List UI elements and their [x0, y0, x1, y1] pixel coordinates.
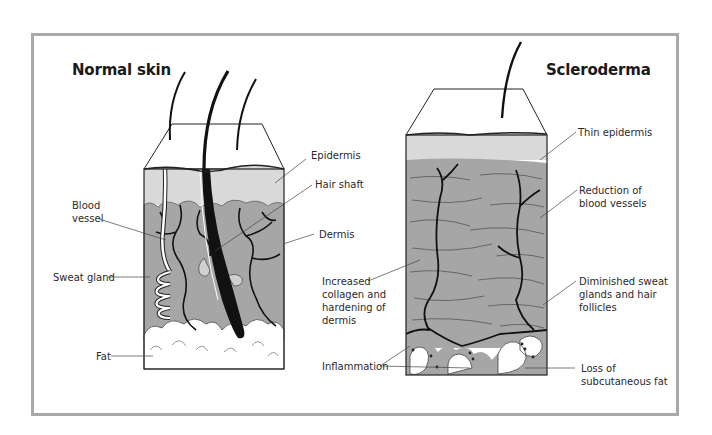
label-fat-loss-2: subcutaneous fat — [581, 375, 668, 388]
label-blood-vessel-1: Blood — [72, 199, 100, 212]
label-diminished-2: glands and hair — [579, 288, 657, 301]
label-blood-vessel-2: vessel — [72, 212, 103, 225]
panel-title-normal-skin: Normal skin — [72, 61, 171, 79]
panel-title-scleroderma: Scleroderma — [546, 61, 651, 79]
label-reduction-1: Reduction of — [579, 184, 642, 197]
label-epidermis: Epidermis — [311, 149, 361, 162]
label-dermis: Dermis — [319, 228, 355, 241]
label-diminished-1: Diminished sweat — [579, 275, 668, 288]
label-diminished-3: follicles — [579, 301, 617, 314]
label-reduction-2: blood vessels — [579, 197, 647, 210]
label-collagen-1: Increased — [322, 275, 371, 288]
label-hair-shaft: Hair shaft — [315, 178, 364, 191]
label-collagen-3: hardening of — [322, 301, 386, 314]
label-fat-loss-1: Loss of — [581, 362, 616, 375]
label-thin-epidermis: Thin epidermis — [578, 126, 652, 139]
scleroderma-block — [368, 42, 577, 375]
label-fat: Fat — [96, 350, 111, 363]
label-inflammation: Inflammation — [322, 360, 388, 373]
label-collagen-2: collagen and — [322, 288, 386, 301]
label-sweat-gland: Sweat gland — [53, 271, 115, 284]
normal-skin-block — [99, 71, 314, 369]
label-collagen-4: dermis — [322, 314, 356, 327]
